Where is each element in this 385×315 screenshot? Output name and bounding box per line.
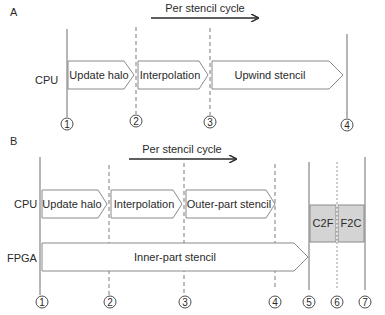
task-label: Update halo: [69, 69, 128, 81]
transfer-label: F2C: [341, 217, 362, 229]
marker-number: 1: [39, 297, 45, 308]
panel-b-task-interpolation: Interpolation: [111, 190, 182, 218]
task-label: Interpolation: [114, 198, 175, 210]
task-label: Inner-part stencil: [134, 251, 216, 263]
panel-b-cycle-label: Per stencil cycle: [142, 143, 221, 155]
task-label: Upwind stencil: [235, 69, 306, 81]
panel-a-marker-4: 4: [341, 119, 353, 131]
panel-a-task-interpolation: Interpolation: [138, 61, 208, 89]
stencil-timeline-diagram: A Per stencil cycle CPU Update halo Inte…: [0, 0, 385, 315]
marker-number: 4: [344, 120, 350, 131]
panel-a-label: A: [10, 6, 18, 18]
marker-number: 2: [133, 116, 139, 127]
panel-a-task-update-halo: Update halo: [68, 61, 134, 89]
panel-b-marker-1: 1: [36, 296, 48, 308]
panel-b-cpu-row-label: CPU: [14, 198, 37, 210]
task-label: Interpolation: [140, 69, 201, 81]
panel-b: B Per stencil cycle CPU FPGA Update halo…: [7, 135, 371, 308]
panel-a: A Per stencil cycle CPU Update halo Inte…: [10, 2, 353, 131]
marker-number: 3: [207, 117, 213, 128]
panel-b-marker-6: 6: [331, 296, 343, 308]
marker-number: 7: [362, 297, 368, 308]
panel-b-label: B: [10, 135, 17, 147]
panel-b-marker-2: 2: [104, 296, 116, 308]
transfer-label: C2F: [313, 217, 334, 229]
marker-number: 4: [272, 297, 278, 308]
panel-a-cycle-label: Per stencil cycle: [165, 2, 244, 14]
marker-number: 3: [182, 297, 188, 308]
panel-a-task-upwind-stencil: Upwind stencil: [212, 61, 343, 89]
panel-b-marker-4: 4: [269, 296, 281, 308]
task-label: Update halo: [42, 198, 101, 210]
panel-b-transfer-c2f: C2F: [310, 205, 336, 242]
marker-number: 6: [334, 297, 340, 308]
task-label: Outer-part stencil: [187, 198, 271, 210]
panel-a-marker-2: 2: [130, 115, 142, 127]
panel-b-transfer-f2c: F2C: [338, 205, 364, 242]
panel-a-marker-1: 1: [61, 118, 73, 130]
panel-b-marker-3: 3: [179, 296, 191, 308]
panel-b-marker-5: 5: [303, 296, 315, 308]
panel-a-marker-3: 3: [204, 116, 216, 128]
panel-b-marker-7: 7: [359, 296, 371, 308]
marker-number: 2: [107, 297, 113, 308]
panel-a-cpu-row-label: CPU: [35, 74, 58, 86]
panel-b-task-inner-part-stencil: Inner-part stencil: [42, 243, 308, 271]
panel-b-task-outer-part-stencil: Outer-part stencil: [186, 190, 275, 218]
marker-number: 5: [306, 297, 312, 308]
marker-number: 1: [64, 119, 70, 130]
panel-b-fpga-row-label: FPGA: [7, 252, 38, 264]
panel-b-task-update-halo: Update halo: [42, 190, 107, 218]
